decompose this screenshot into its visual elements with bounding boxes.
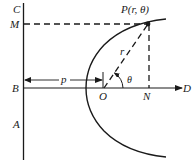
theta-arc: [115, 73, 124, 88]
label-P: P(r, θ): [120, 3, 149, 16]
label-p: p: [60, 73, 67, 85]
label-D: D: [182, 82, 191, 94]
label-A: A: [12, 118, 20, 130]
label-N: N: [142, 90, 151, 102]
label-r: r: [120, 45, 125, 57]
label-M: M: [9, 18, 20, 30]
label-C: C: [13, 3, 21, 15]
parabola-diagram: C M B A p O N D r θ P(r, θ): [0, 0, 194, 168]
label-O: O: [99, 90, 107, 102]
label-theta: θ: [127, 74, 132, 85]
label-B: B: [12, 82, 19, 94]
point-P: [146, 22, 151, 27]
radius-line-r: [104, 24, 148, 88]
